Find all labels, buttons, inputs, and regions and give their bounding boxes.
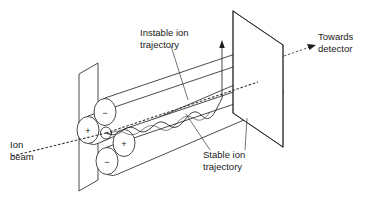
electrode-lower-right: − [96, 148, 118, 175]
electrode-lower-right-sign: − [104, 157, 109, 167]
label-instable-trajectory: Instable ion trajectory [140, 27, 189, 50]
electrode-upper-left-sign: − [102, 108, 107, 118]
towards-detector-label-line2: detector [318, 43, 352, 54]
quadrupole-diagram: − + + − Ion beam Instable ion tra [0, 0, 374, 215]
ion-beam-label-line2: beam [10, 151, 34, 162]
stable-trajectory-label-line1: Stable ion [203, 149, 245, 160]
towards-detector-label-line1: Towards [318, 31, 354, 42]
label-towards-detector: Towards detector [318, 31, 354, 54]
ion-beam-label-line1: Ion [10, 139, 23, 150]
electrode-upper-right-sign: + [121, 139, 126, 149]
electrode-lower-left-sign: + [85, 126, 90, 136]
instable-trajectory-label-line2: trajectory [140, 39, 179, 50]
exit-plane [233, 11, 283, 147]
label-stable-trajectory: Stable ion trajectory [203, 149, 245, 172]
stable-label-leader-2 [245, 118, 247, 150]
detector-leader [284, 44, 316, 56]
electrode-upper-left: − [94, 99, 116, 126]
instable-trajectory-label-line1: Instable ion [140, 27, 189, 38]
label-ion-beam: Ion beam [10, 139, 34, 162]
electrode-upper-right: + [113, 130, 135, 157]
stable-trajectory-label-line2: trajectory [203, 161, 242, 172]
